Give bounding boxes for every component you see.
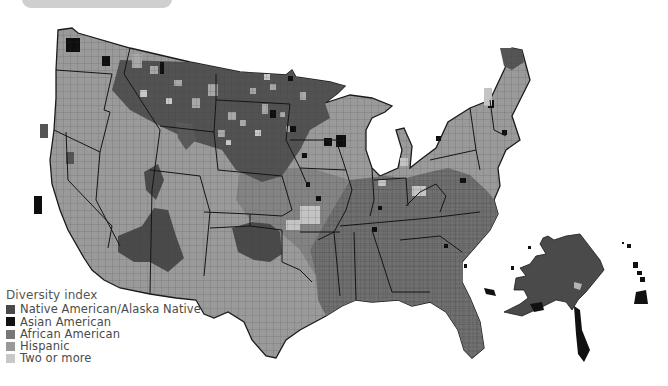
legend-label: Native American/Alaska Native [20,303,201,315]
swatch-african-icon [6,330,15,339]
swatch-hispanic-icon [6,342,15,351]
hawaii [622,242,648,304]
swatch-two-or-more-icon [6,354,15,363]
legend-item-native: Native American/Alaska Native [6,303,201,315]
legend-item-two-or-more: Two or more [6,352,201,364]
legend-title: Diversity index [6,289,201,301]
legend: Diversity index Native American/Alaska N… [6,289,201,365]
swatch-asian-icon [6,317,15,326]
swatch-native-icon [6,305,15,314]
legend-label: Two or more [20,352,92,364]
alaska [464,234,604,362]
